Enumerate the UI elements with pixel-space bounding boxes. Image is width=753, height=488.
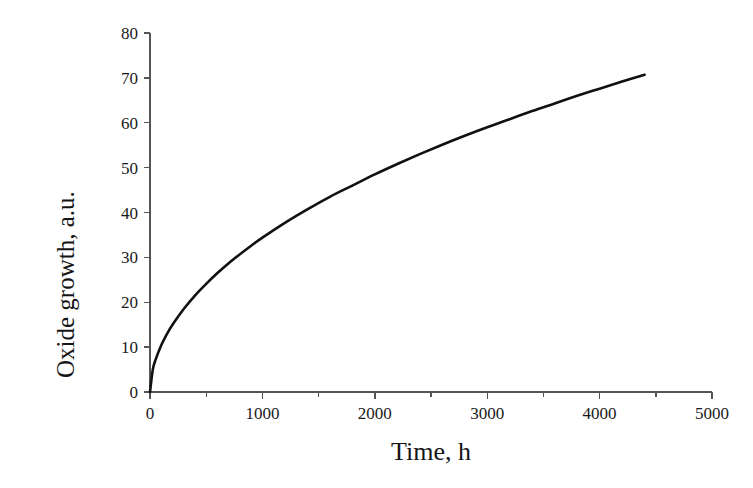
y-tick-label: 60 bbox=[121, 114, 138, 133]
data-series-group bbox=[150, 75, 645, 392]
oxide-growth-figure: Oxide growth, a.u. Time, h 0102030405060… bbox=[0, 0, 753, 488]
x-tick-label: 4000 bbox=[583, 404, 617, 423]
x-tick-label: 1000 bbox=[245, 404, 279, 423]
plot-area: 01020304050607080 010002000300040005000 bbox=[0, 0, 753, 488]
y-tick-label: 70 bbox=[121, 69, 138, 88]
x-tick-label: 3000 bbox=[470, 404, 504, 423]
y-tick-label: 10 bbox=[121, 338, 138, 357]
x-tick-label: 2000 bbox=[358, 404, 392, 423]
y-tick-label: 50 bbox=[121, 159, 138, 178]
oxide-growth-curve bbox=[150, 75, 645, 392]
y-tick-label: 20 bbox=[121, 293, 138, 312]
x-tick-label: 0 bbox=[146, 404, 155, 423]
x-tick-label: 5000 bbox=[695, 404, 729, 423]
y-tick-label: 0 bbox=[130, 383, 139, 402]
y-axis: 01020304050607080 bbox=[121, 24, 150, 402]
y-tick-label: 80 bbox=[121, 24, 138, 43]
y-tick-group: 01020304050607080 bbox=[121, 24, 150, 402]
x-axis: 010002000300040005000 bbox=[146, 392, 729, 423]
y-tick-label: 40 bbox=[121, 204, 138, 223]
x-tick-group: 010002000300040005000 bbox=[146, 392, 729, 423]
y-tick-label: 30 bbox=[121, 248, 138, 267]
